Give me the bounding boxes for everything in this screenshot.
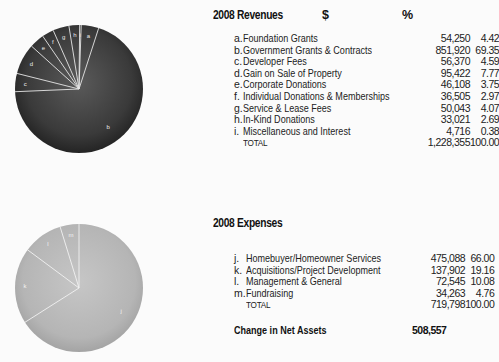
slice-label-j: j [119,308,121,314]
row-amount: 33,021 [428,114,470,126]
total-percent: 100.00 [465,299,494,311]
expenses-total-row: TOTAL 719,798 100.00 [234,299,494,311]
slice-label-c: c [24,81,27,87]
row-percent: 2.69 [470,114,499,126]
slice-label-d: d [30,61,33,67]
slice-label-m: m [68,232,73,238]
net-assets-row: Change in Net Assets 508,557 [234,324,342,336]
row-percent: 4.42 [470,33,499,45]
slice-label-l: l [47,241,48,247]
row-amount: 54,250 [428,33,470,45]
revenues-total-row: TOTAL 1,228,355 100.00 [234,137,499,149]
slice-label-h: h [73,32,76,38]
row-letter: m. [234,288,246,300]
row-percent: 66.00 [465,253,494,265]
row-letter: j. [234,253,246,265]
row-label: Miscellaneous and Interest [243,126,402,138]
row-letter: h. [234,114,243,126]
row-amount: 36,505 [428,91,470,103]
row-label: Fundraising [246,288,405,300]
row-letter: a. [234,33,243,45]
revenues-title: 2008 Revenues [213,8,283,22]
revenues-table: a.Foundation Grants54,2504.42b.Governmen… [234,33,499,149]
total-amount: 719,798 [431,299,465,311]
slice-label-g: g [62,34,65,40]
slice-label-i: i [80,32,81,38]
row-percent: 2.97 [470,91,499,103]
revenue-pie-chart: abcdefghi [13,23,145,155]
row-letter: f. [234,91,243,103]
net-assets-value: 508,557 [412,324,472,336]
amount-column-header: $ [322,8,329,22]
expense-pie-chart: jklm [13,222,145,354]
expenses-table: j.Homebuyer/Homeowner Services475,08866.… [234,253,494,311]
row-letter: i. [234,126,243,138]
total-amount: 1,228,355 [428,137,470,149]
net-assets-label: Change in Net Assets [234,324,327,336]
expenses-title: 2008 Expenses [213,216,282,230]
total-percent: 100.00 [470,137,499,149]
percent-column-header: % [402,8,413,22]
total-label: TOTAL [243,137,402,149]
total-label: TOTAL [246,299,405,311]
row-amount: 475,088 [431,253,465,265]
